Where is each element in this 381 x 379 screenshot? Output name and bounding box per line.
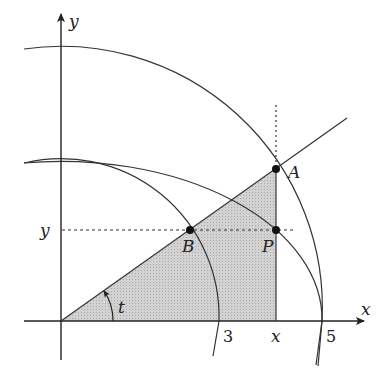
tick-5-label: 5: [326, 327, 336, 346]
point-A-label: A: [286, 162, 300, 182]
point-B: [186, 226, 194, 234]
tick-3-label: 3: [223, 327, 233, 346]
point-B-label: B: [181, 236, 195, 256]
tick-x-label: x: [271, 326, 281, 346]
y-axis-label: y: [68, 11, 79, 31]
y-value-label: y: [39, 220, 50, 240]
point-A: [272, 165, 280, 173]
x-axis-label: x: [361, 299, 371, 319]
ellipse-diagram: y x y A B P t 3 x 5: [0, 0, 381, 379]
point-P: [272, 226, 280, 234]
angle-t-label: t: [118, 297, 125, 317]
point-P-label: P: [261, 236, 274, 256]
